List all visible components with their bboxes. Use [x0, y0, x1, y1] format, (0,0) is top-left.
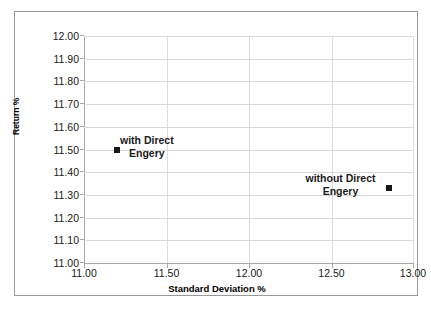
y-tick-label: 11.70: [27, 99, 79, 110]
x-tick-label: 13.00: [383, 268, 431, 279]
x-tick-label: 12.50: [302, 268, 362, 279]
y-tick-label: 11.40: [27, 167, 79, 178]
y-axis-title: Return %: [11, 98, 21, 135]
plot-area: with Direct Engery without Direct Engery: [84, 36, 414, 263]
chart-frame: 12.00 11.90 11.80 11.70 11.60 11.50 11.4…: [14, 11, 418, 296]
x-tick-label: 11.50: [137, 268, 197, 279]
y-tick-label: 11.60: [27, 122, 79, 133]
y-tick-label: 11.10: [27, 235, 79, 246]
x-tick-label: 11.00: [54, 268, 114, 279]
y-tick-label: 12.00: [27, 31, 79, 42]
y-tick-label: 11.80: [27, 76, 79, 87]
x-tick-label: 12.00: [219, 268, 279, 279]
data-point-label-without-direct-engery: without Direct Engery: [298, 172, 383, 197]
data-point-marker-without-direct-engery: [386, 185, 392, 191]
data-point-label-line2: Engery: [120, 147, 174, 160]
data-point-label-line1: without Direct: [298, 172, 383, 185]
y-tick-label: 11.20: [27, 213, 79, 224]
y-tick-label: 11.90: [27, 54, 79, 65]
data-point-label-with-direct-engery: with Direct Engery: [120, 134, 174, 159]
data-point-label-line1: with Direct: [120, 134, 174, 147]
data-point-label-line2: Engery: [298, 185, 383, 198]
x-axis-title: Standard Deviation %: [15, 283, 419, 294]
y-tick-label: 11.30: [27, 190, 79, 201]
y-tick-label: 11.50: [27, 145, 79, 156]
